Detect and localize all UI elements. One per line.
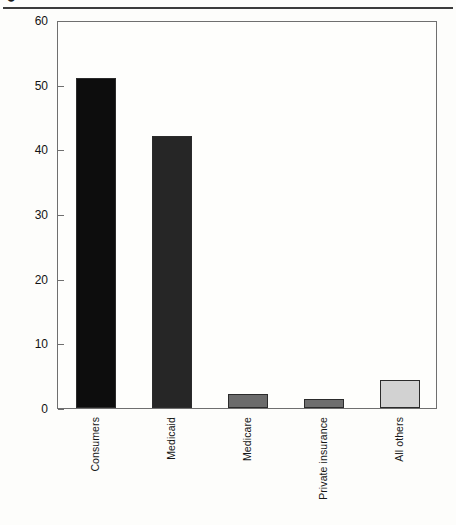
y-tick-label: 0: [41, 402, 48, 416]
y-tick-label: 20: [35, 273, 48, 287]
y-tick-label: 40: [35, 143, 48, 157]
plot-area: Percentage of Nursing Home Bills 0102030…: [57, 21, 437, 409]
bar: [152, 136, 192, 408]
bar: [228, 394, 268, 408]
x-axis-labels: ConsumersMedicaidMedicarePrivate insuran…: [57, 411, 437, 521]
x-axis-label: Medicare: [241, 417, 253, 461]
x-axis-label: Consumers: [89, 417, 101, 472]
y-tick-mark: [58, 409, 64, 410]
x-axis-label: Medicaid: [165, 417, 177, 460]
chart-figure: ● Percentage of Nursing Home Bills 01020…: [0, 0, 456, 525]
bar: [304, 399, 344, 408]
y-tick-label: 50: [35, 79, 48, 93]
x-axis-label: Private insurance: [317, 417, 329, 500]
bar: [380, 380, 420, 408]
bar: [76, 78, 116, 408]
y-tick-label: 30: [35, 208, 48, 222]
y-tick-label: 10: [35, 337, 48, 351]
caption-bullet-icon: ●: [6, 0, 16, 6]
x-axis-label: All others: [393, 417, 405, 462]
y-tick-label: 60: [35, 14, 48, 28]
bar-series: [58, 22, 436, 408]
horizontal-rule: [3, 7, 453, 9]
